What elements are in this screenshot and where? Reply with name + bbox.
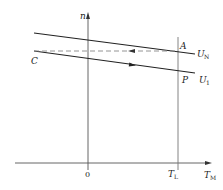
direction-arrow-left-icon xyxy=(128,49,135,53)
x-axis: T M 0 xyxy=(15,161,216,181)
y-axis: n xyxy=(80,11,90,170)
motor-characteristic-diagram: n T M 0 T L U N U 1 A C P xyxy=(0,0,223,190)
rated-voltage-label-sub: N xyxy=(204,53,209,60)
load-torque-line: T L xyxy=(168,37,178,180)
y-axis-label: n xyxy=(80,11,86,21)
transition-path xyxy=(34,49,178,53)
reduced-voltage-label-sub: 1 xyxy=(206,79,210,86)
point-a-label: A xyxy=(179,41,187,51)
x-axis-arrow-icon xyxy=(205,161,212,165)
x-axis-label-sub: M xyxy=(210,174,216,181)
y-axis-arrow-icon xyxy=(86,12,90,19)
point-p-label: P xyxy=(181,75,189,85)
load-torque-label-sub: L xyxy=(174,173,178,180)
origin-label: 0 xyxy=(85,170,90,179)
point-c-label: C xyxy=(31,56,38,66)
